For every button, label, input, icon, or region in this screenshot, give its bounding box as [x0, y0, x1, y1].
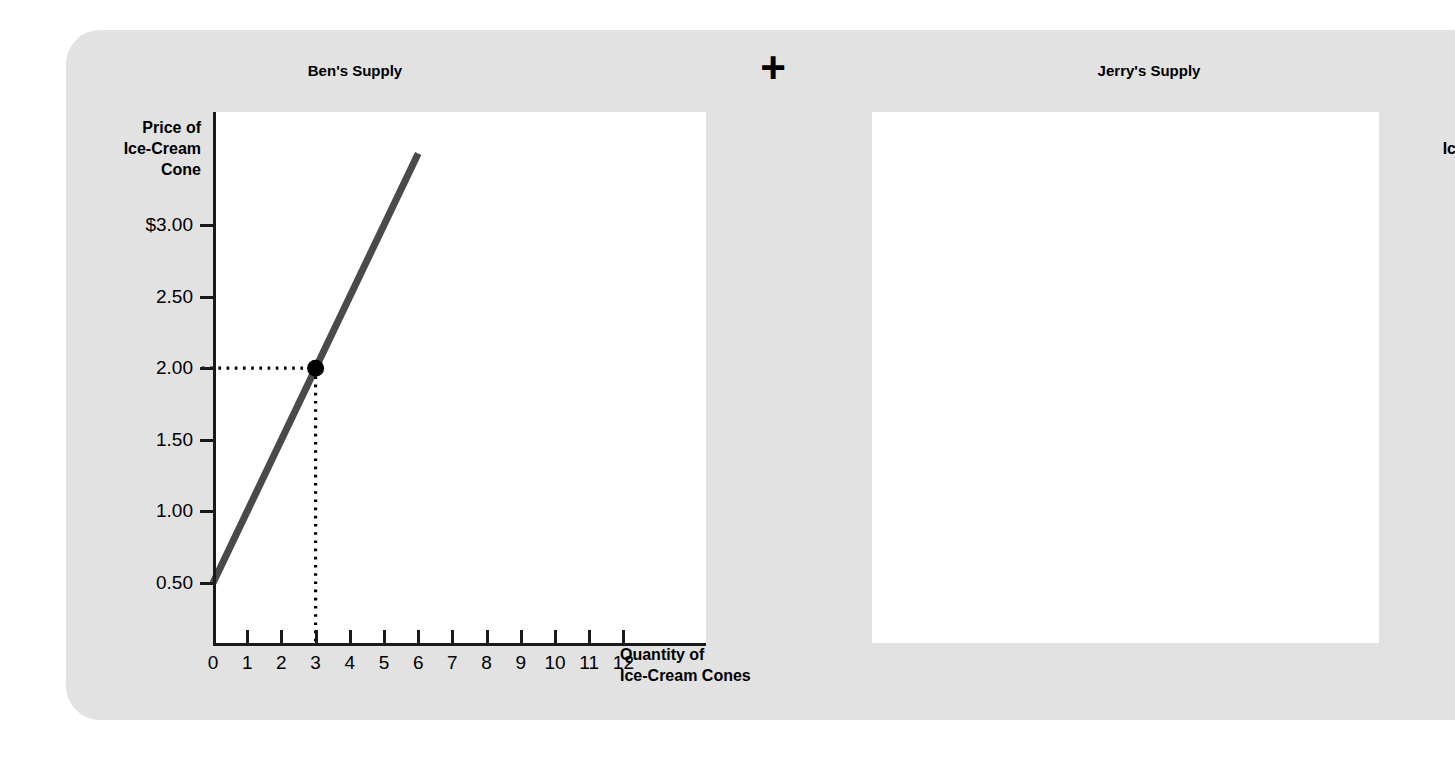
x-axis-tick-label: 1: [242, 652, 253, 674]
y-axis-line: [213, 112, 216, 646]
y-axis-title-line: Price of: [83, 117, 201, 138]
x-axis-tick-label: 2: [276, 652, 287, 674]
x-axis-tick: [451, 630, 454, 643]
y-axis-tick-label: 1.00: [1417, 500, 1455, 522]
y-axis-title: Price ofIce-CreamCone: [1402, 117, 1455, 180]
y-axis-tick: [200, 296, 213, 299]
x-axis-tick-label: 9: [516, 652, 527, 674]
x-axis-tick: [588, 630, 591, 643]
x-axis-tick: [280, 630, 283, 643]
y-axis-tick-label: $3.00: [1417, 214, 1455, 236]
x-axis-tick-label: 6: [413, 652, 424, 674]
y-axis-tick: [200, 367, 213, 370]
y-axis-tick: [200, 582, 213, 585]
x-axis-tick-label: 4: [345, 652, 356, 674]
y-axis-title-line: Price of: [1402, 117, 1455, 138]
panel-title-jerry: Jerry's Supply: [1098, 62, 1201, 79]
plot-area-jerry: [872, 112, 1379, 643]
y-axis-tick-label: 1.50: [98, 429, 193, 451]
x-axis-tick-label: 3: [310, 652, 321, 674]
x-axis-tick: [383, 630, 386, 643]
y-axis-tick-label: 2.00: [1417, 357, 1455, 379]
y-axis-tick-label: 2.50: [1417, 286, 1455, 308]
x-axis-tick-label: 5: [379, 652, 390, 674]
y-axis-tick: [200, 510, 213, 513]
x-axis-tick-label: 7: [447, 652, 458, 674]
y-axis-tick: [200, 439, 213, 442]
y-axis-tick-label: $3.00: [98, 214, 193, 236]
x-axis-tick: [486, 630, 489, 643]
y-axis-tick-label: 2.00: [98, 357, 193, 379]
x-axis-tick-label: 11: [579, 652, 599, 674]
x-axis-tick: [246, 630, 249, 643]
y-axis-tick-label: 1.50: [1417, 429, 1455, 451]
y-axis-title-line: Cone: [1402, 159, 1455, 180]
y-axis-title-line: Cone: [83, 159, 201, 180]
y-axis-tick-label: 1.00: [98, 500, 193, 522]
x-axis-tick: [554, 630, 557, 643]
panel-ben-supply: Ben's Supply $3.002.502.001.501.000.5001…: [0, 0, 760, 758]
y-axis-title-line: Ice-Cream: [1402, 138, 1455, 159]
x-axis-tick: [417, 630, 420, 643]
plot-area-ben: [213, 112, 706, 643]
x-axis-tick: [622, 630, 625, 643]
panel-jerry-supply: Jerry's Supply $3.002.502.001.501.000.50…: [660, 0, 1455, 758]
x-axis-tick-label: 8: [481, 652, 492, 674]
y-axis-title: Price ofIce-CreamCone: [83, 117, 201, 180]
y-axis-tick-label: 0.50: [1417, 572, 1455, 594]
panel-title-ben: Ben's Supply: [308, 62, 402, 79]
x-axis-tick-label: 0: [208, 652, 219, 674]
x-axis-tick-label: 10: [544, 652, 565, 674]
x-axis-tick: [520, 630, 523, 643]
x-axis-tick: [315, 630, 318, 643]
y-axis-tick-label: 2.50: [98, 286, 193, 308]
x-axis-tick: [349, 630, 352, 643]
y-axis-title-line: Ice-Cream: [83, 138, 201, 159]
y-axis-tick: [200, 224, 213, 227]
figure-root: + Ben's Supply $3.002.502.001.501.000.50…: [0, 0, 1455, 758]
y-axis-tick-label: 0.50: [98, 572, 193, 594]
